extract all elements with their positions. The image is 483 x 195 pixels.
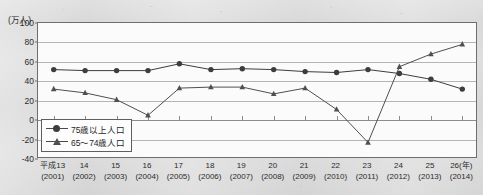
y-axis-tick-label: -20 [22, 135, 34, 145]
circle-marker-icon [46, 123, 68, 134]
data-point-circle [334, 70, 339, 75]
y-axis-tick-label: -40 [22, 154, 34, 164]
chart-figure: (万人) 100806040200-20-40 平成13(2001)14(200… [0, 0, 483, 195]
x-axis-tick-label: 19(2007) [230, 161, 253, 182]
scan-speck [300, 186, 302, 187]
x-axis-tick-label: 22(2010) [324, 161, 347, 182]
data-point-triangle [302, 85, 308, 90]
data-point-circle [208, 67, 213, 72]
data-point-circle [82, 68, 87, 73]
data-point-circle [365, 67, 370, 72]
data-point-triangle [51, 86, 57, 91]
x-axis-tick-label: 17(2005) [167, 161, 190, 182]
x-axis-tick-label: 14(2002) [73, 161, 96, 182]
data-point-circle [145, 68, 150, 73]
y-axis-tick-label: 60 [25, 57, 34, 67]
scan-speck [220, 11, 222, 12]
data-point-triangle [334, 106, 340, 111]
data-point-circle [428, 77, 433, 82]
data-point-triangle [460, 41, 466, 47]
y-axis-tick-label: 20 [25, 96, 34, 106]
legend-label-65-74: 65～74歳人口 [71, 136, 125, 148]
x-axis-tick-label: 18(2006) [198, 161, 221, 182]
data-point-circle [460, 86, 465, 91]
data-point-circle [51, 67, 56, 72]
scan-speck [150, 6, 153, 7]
x-axis-tick-label: 20(2008) [261, 161, 284, 182]
x-axis-tick-label: 25(2013) [418, 161, 441, 182]
x-axis-tick-label: 21(2009) [293, 161, 316, 182]
chart-legend: 75歳以上人口 65～74歳人口 [41, 119, 132, 152]
scan-speck [330, 7, 332, 8]
legend-item-65-74: 65～74歳人口 [46, 135, 125, 148]
data-point-circle [177, 61, 182, 66]
data-point-circle [302, 69, 307, 74]
data-point-circle [240, 66, 245, 71]
x-axis-tick-label: 15(2003) [104, 161, 127, 182]
x-axis-tick-label: 23(2011) [356, 161, 379, 182]
x-axis-tick-label: 26(年)(2014) [450, 161, 473, 182]
data-point-circle [271, 67, 276, 72]
y-axis-tick-label: 80 [25, 37, 34, 47]
y-axis-tick-label: 100 [20, 18, 34, 28]
y-axis-tick-label: 40 [25, 76, 34, 86]
scan-speck [460, 170, 462, 171]
x-axis-tick-label: 平成13(2001) [40, 161, 65, 182]
legend-item-75-plus: 75歳以上人口 [46, 122, 125, 135]
x-axis-tick-label: 16(2004) [135, 161, 158, 182]
scan-speck [90, 178, 92, 179]
scan-speck [400, 13, 403, 14]
triangle-marker-icon [46, 136, 68, 147]
x-axis-tick-label: 24(2012) [387, 161, 410, 182]
legend-label-75-plus: 75歳以上人口 [71, 123, 125, 135]
y-axis-tick-label: 0 [29, 115, 34, 125]
data-point-circle [114, 68, 119, 73]
scan-speck [62, 9, 64, 10]
